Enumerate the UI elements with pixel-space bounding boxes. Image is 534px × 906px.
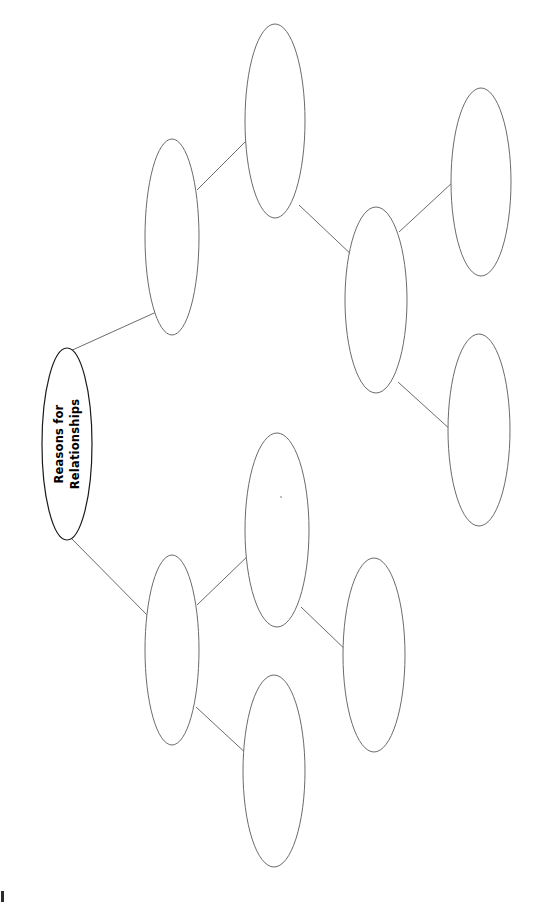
node-upper-child-mid[interactable]: [345, 207, 407, 393]
relationships-tree-diagram: Reasons for Relationships: [0, 0, 534, 906]
root-label-line-1: Reasons for: [52, 404, 66, 483]
node-lower-leaf[interactable]: [343, 558, 405, 752]
connector-upper-child-mid-to-leaf-bottom: [398, 382, 452, 431]
connector-root-to-branch-lower: [70, 537, 152, 620]
connector-branch-upper-to-child-top: [197, 135, 252, 190]
interior-speck-artifact: [280, 496, 282, 498]
node-root[interactable]: [42, 348, 92, 540]
node-upper-leaf-bottom[interactable]: [448, 334, 510, 526]
connector-upper-child-mid-to-leaf-top: [399, 182, 453, 232]
connector-root-to-branch-upper: [68, 309, 163, 352]
node-lower-child-upper[interactable]: [245, 433, 309, 627]
node-upper-child-top[interactable]: [245, 24, 305, 218]
node-lower-child-bottom[interactable]: [243, 675, 305, 867]
node-branch-upper[interactable]: [145, 139, 199, 335]
node-upper-leaf-top[interactable]: [451, 88, 511, 276]
connector-branch-lower-to-child-upper: [197, 552, 252, 605]
node-group: Reasons for Relationships: [42, 24, 511, 867]
connector-upper-child-top-to-child-mid: [299, 205, 355, 258]
root-label-line-2: Relationships: [68, 399, 82, 490]
connector-branch-lower-to-child-bottom: [196, 707, 250, 757]
page-edge-mark: [1, 891, 4, 902]
node-branch-lower[interactable]: [145, 555, 199, 745]
